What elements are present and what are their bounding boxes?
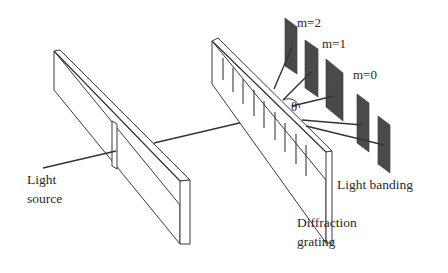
diffraction-diagram: θ m=2 m=1 m=0 Light source Light banding… [0,0,448,273]
slit [112,121,117,169]
slit-plate [54,50,190,244]
light-source-label-line2: source [27,191,62,206]
grating-label-line1: Diffraction [297,215,357,230]
order-label-m1: m=1 [322,36,346,51]
band-m0-upper [326,59,343,121]
light-source-label-line1: Light [27,172,56,187]
incident-ray [43,151,116,168]
band-m0-lower [357,94,369,152]
angle-label: θ [291,99,297,114]
light-banding-label: Light banding [337,177,413,192]
order-label-m2: m=2 [297,15,321,30]
grating-label-line2: grating [297,234,335,249]
order-label-m0: m=0 [353,67,377,82]
band-m1 [305,40,318,97]
band-m2 [285,18,297,74]
